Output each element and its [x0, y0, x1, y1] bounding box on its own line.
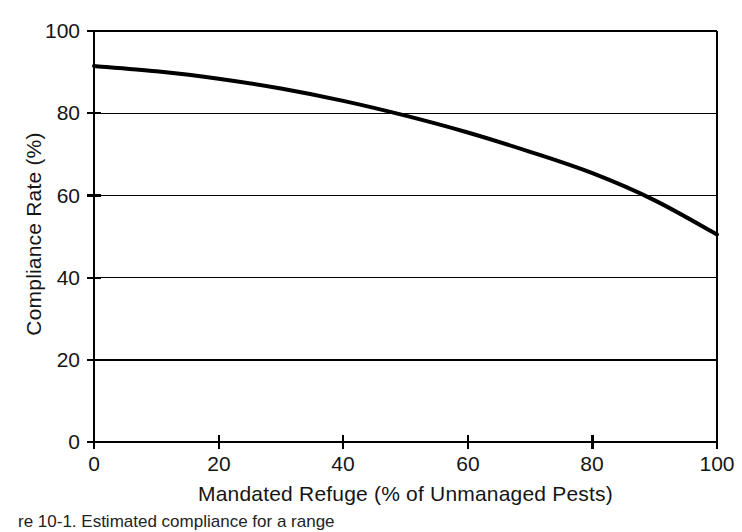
axis-ticks	[87, 31, 717, 449]
gridlines	[94, 31, 717, 360]
axis-spines	[94, 31, 717, 442]
data-series-line	[94, 66, 717, 235]
figure-caption: re 10-1. Estimated compliance for a rang…	[18, 512, 718, 532]
